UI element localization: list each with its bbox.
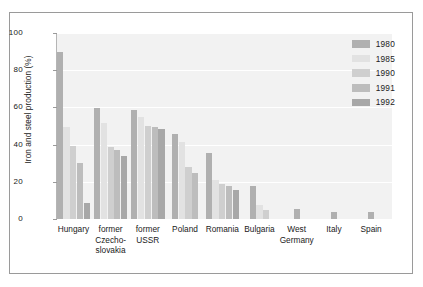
- bar: [206, 153, 212, 219]
- bar: [114, 150, 120, 219]
- legend-item: 1992: [352, 97, 395, 107]
- legend-item: 1980: [352, 39, 395, 49]
- chart-legend: 19801985199019911992: [352, 39, 395, 107]
- bar: [70, 146, 76, 219]
- bar: [179, 142, 185, 219]
- legend-label: 1990: [376, 68, 395, 78]
- bar: [226, 186, 232, 219]
- bar: [368, 212, 374, 219]
- legend-swatch: [352, 69, 370, 77]
- legend-label: 1985: [376, 54, 395, 64]
- y-tick-label: 80: [1, 65, 23, 74]
- legend-swatch: [352, 40, 370, 48]
- y-tick-label: 100: [1, 28, 23, 37]
- y-tick-label: 20: [1, 177, 23, 186]
- bar: [131, 110, 137, 219]
- legend-item: 1985: [352, 54, 395, 64]
- plot-area: [57, 33, 392, 219]
- bar: [94, 108, 100, 219]
- legend-label: 1991: [376, 83, 395, 93]
- bar: [63, 127, 69, 219]
- gridline: [57, 70, 392, 71]
- bar: [294, 209, 300, 219]
- y-tick-label: 40: [1, 140, 23, 149]
- bar: [77, 163, 83, 219]
- legend-swatch: [352, 55, 370, 63]
- bar: [145, 126, 151, 219]
- y-tick-mark: [53, 145, 57, 146]
- bar: [101, 123, 107, 219]
- bar: [158, 129, 164, 219]
- bar: [250, 186, 256, 219]
- y-tick-label: 60: [1, 102, 23, 111]
- bar: [172, 134, 178, 219]
- x-tick-label: Spain: [341, 224, 401, 235]
- bar: [233, 190, 239, 219]
- bar: [57, 52, 63, 219]
- gridline: [57, 145, 392, 146]
- bar: [219, 184, 225, 219]
- legend-item: 1991: [352, 83, 395, 93]
- bar: [108, 147, 114, 219]
- legend-label: 1992: [376, 97, 395, 107]
- gridline: [57, 107, 392, 108]
- bar: [212, 180, 218, 219]
- legend-swatch: [352, 84, 370, 92]
- bar: [256, 205, 262, 219]
- y-tick-mark: [53, 33, 57, 34]
- y-tick-mark: [53, 219, 57, 220]
- bar: [331, 212, 337, 219]
- bar: [84, 203, 90, 219]
- bar: [192, 173, 198, 219]
- chart-figure: Iron and steel production (%) 1980198519…: [9, 12, 413, 274]
- legend-item: 1990: [352, 68, 395, 78]
- y-tick-label: 0: [1, 214, 23, 223]
- legend-swatch: [352, 99, 370, 107]
- bar: [152, 127, 158, 219]
- y-tick-mark: [53, 70, 57, 71]
- gridline: [57, 33, 392, 34]
- y-tick-mark: [53, 107, 57, 108]
- bar: [263, 210, 269, 219]
- bar: [121, 156, 127, 219]
- y-tick-mark: [53, 182, 57, 183]
- legend-label: 1980: [376, 39, 395, 49]
- y-axis-title: Iron and steel production (%): [24, 40, 33, 180]
- bar: [138, 117, 144, 219]
- bar: [185, 167, 191, 219]
